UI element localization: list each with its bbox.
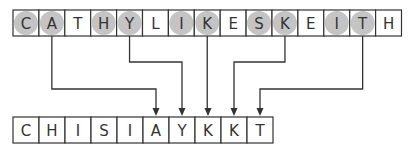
cell-letter: K bbox=[203, 122, 214, 140]
connection-arrow bbox=[205, 36, 212, 116]
top-cell: T bbox=[350, 10, 376, 36]
bottom-cell: C bbox=[13, 117, 39, 143]
top-cell: I bbox=[324, 10, 350, 36]
bottom-cell: K bbox=[221, 117, 247, 143]
connection-arrow bbox=[257, 36, 363, 116]
bottom-cell: H bbox=[39, 117, 65, 143]
cell-letter: I bbox=[76, 122, 80, 140]
cell-letter: S bbox=[254, 15, 264, 33]
cell-letter: H bbox=[98, 15, 109, 33]
cell-letter: C bbox=[21, 15, 31, 33]
bottom-cell: I bbox=[65, 117, 91, 143]
cell-letter: T bbox=[72, 15, 83, 33]
cell-letter: C bbox=[21, 122, 31, 140]
cell-letter: T bbox=[254, 122, 265, 140]
top-cell: K bbox=[272, 10, 298, 36]
top-cell: H bbox=[376, 10, 402, 36]
cell-letter: E bbox=[228, 15, 237, 33]
cell-letter: A bbox=[151, 122, 162, 140]
cell-letter: I bbox=[128, 122, 132, 140]
cell-letter: H bbox=[46, 122, 57, 140]
arrowhead-icon bbox=[257, 108, 264, 116]
cell-letter: A bbox=[47, 15, 58, 33]
top-cell: L bbox=[143, 10, 169, 36]
cell-letter: I bbox=[335, 15, 339, 33]
cell-letter: Y bbox=[176, 122, 187, 140]
cell-letter: K bbox=[280, 15, 291, 33]
cell-letter: L bbox=[151, 15, 160, 33]
cell-letter: S bbox=[99, 122, 109, 140]
top-cell: E bbox=[220, 10, 246, 36]
cell-letter: Y bbox=[124, 15, 135, 33]
top-cell: A bbox=[39, 10, 65, 36]
letter-mapping-diagram: CATHYLIKESKEITH CHISIAYKKT bbox=[0, 0, 413, 152]
bottom-cell: S bbox=[91, 117, 117, 143]
top-cell: C bbox=[13, 10, 39, 36]
cell-letter: K bbox=[229, 122, 240, 140]
top-cell: I bbox=[168, 10, 194, 36]
connection-arrow bbox=[231, 36, 285, 116]
top-cell: T bbox=[65, 10, 91, 36]
bottom-cell: T bbox=[247, 117, 273, 143]
top-cell: E bbox=[298, 10, 324, 36]
connection-arrows bbox=[52, 36, 363, 116]
connection-arrow bbox=[52, 36, 160, 116]
arrowhead-icon bbox=[153, 108, 160, 116]
arrowhead-icon bbox=[231, 108, 238, 116]
bottom-cell: I bbox=[117, 117, 143, 143]
cell-letter: T bbox=[357, 15, 368, 33]
top-letter-row: CATHYLIKESKEITH bbox=[13, 10, 402, 36]
arrowhead-icon bbox=[179, 108, 186, 116]
top-cell: K bbox=[194, 10, 220, 36]
cell-letter: H bbox=[383, 15, 394, 33]
connection-arrow bbox=[130, 36, 186, 116]
cell-letter: I bbox=[179, 15, 183, 33]
top-cell: Y bbox=[117, 10, 143, 36]
bottom-cell: A bbox=[143, 117, 169, 143]
arrowhead-icon bbox=[205, 108, 212, 116]
cell-letter: E bbox=[306, 15, 315, 33]
top-cell: H bbox=[91, 10, 117, 36]
bottom-cell: K bbox=[195, 117, 221, 143]
top-cell: S bbox=[246, 10, 272, 36]
cell-letter: K bbox=[202, 15, 213, 33]
bottom-cell: Y bbox=[169, 117, 195, 143]
bottom-letter-row: CHISIAYKKT bbox=[13, 117, 273, 143]
